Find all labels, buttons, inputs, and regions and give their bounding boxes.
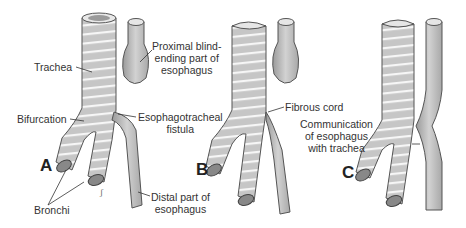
label-proximal-esophagus: Proximal blind- ending part of esophagus: [152, 40, 221, 76]
trachea-a: [56, 18, 116, 182]
proximal-esophagus-b: [273, 22, 299, 83]
diagram-canvas: ʃ: [0, 0, 466, 228]
label-bifurcation: Bifurcation: [17, 113, 67, 125]
esophagus-c: [416, 22, 442, 210]
panel-c-illustration: [354, 19, 442, 211]
label-communication: Communication of esophagus with trachea: [300, 118, 373, 154]
panel-letter-c: C: [342, 163, 354, 183]
proximal-esophagus-a: [123, 22, 149, 84]
panel-letter-a: A: [40, 156, 52, 176]
label-distal-esophagus: Distal part of esophagus: [151, 191, 210, 215]
label-fibrous-cord: Fibrous cord: [285, 101, 343, 113]
svg-text:ʃ: ʃ: [99, 187, 104, 197]
panel-letter-b: B: [196, 160, 208, 180]
label-trachea: Trachea: [34, 61, 72, 73]
panel-a-illustration: ʃ: [55, 13, 149, 208]
fibrous-cord-b: [266, 112, 290, 214]
label-bronchi: Bronchi: [34, 204, 70, 216]
label-esophagotracheal-fistula: Esophagotracheal fistula: [138, 111, 223, 135]
